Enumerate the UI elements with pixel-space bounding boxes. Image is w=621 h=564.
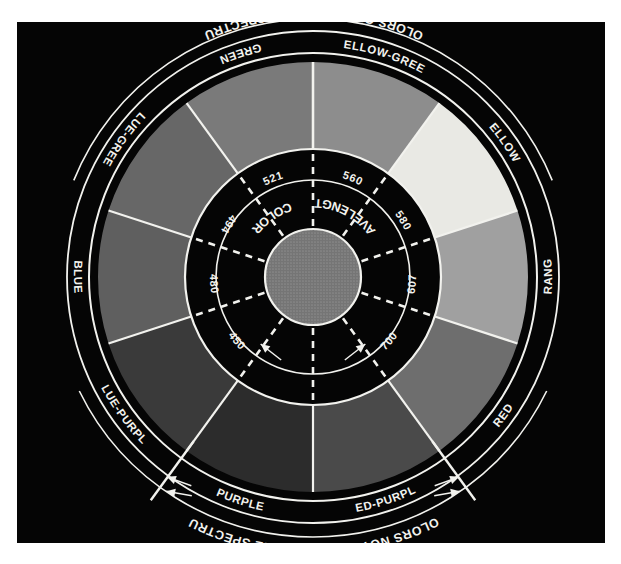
band-tick <box>238 318 283 380</box>
band-tick <box>191 237 264 261</box>
segment-label-purple-text: PURPLE <box>215 486 266 513</box>
band-label-color-text: COLOR <box>249 200 294 237</box>
wavelength-700: 700 <box>378 329 400 352</box>
segment-label-blue-green-text: BLUE-GREEN <box>17 22 148 169</box>
wavelength-700-text: 700 <box>378 329 400 352</box>
wavelength-607-text: 607 <box>405 274 418 294</box>
band-arrow-right-head <box>356 344 366 353</box>
band-arrow-left <box>261 344 281 360</box>
center-hub <box>265 229 361 325</box>
segment-label-green: GREEN <box>218 42 263 67</box>
color-wheel: YELLOW-GREENYELLOWORANGEREDRED-PURPLEPUR… <box>17 22 605 543</box>
segment-label-purple: PURPLE <box>215 486 266 513</box>
segment-label-green-text: GREEN <box>218 42 263 67</box>
caption-top-arc: COLORS ON THE VISIBLE SPECTRUM <box>17 22 425 43</box>
wavelength-450-text: 450 <box>226 329 248 352</box>
segment-label-red-text: RED <box>491 401 516 429</box>
band-tick <box>343 318 388 380</box>
wavelength-480: 480 <box>208 274 221 294</box>
band-label-color: COLOR <box>249 200 294 237</box>
segment-label-blue: BLUE <box>72 260 85 294</box>
arrow-right-upper-head <box>449 476 459 484</box>
arrow-left-lower <box>166 489 192 497</box>
band-tick <box>362 293 435 317</box>
arrow-left-upper-head <box>167 476 177 484</box>
arrow-right-lower <box>434 489 460 497</box>
wavelength-450: 450 <box>226 329 248 352</box>
segment-label-blue-green: BLUE-GREEN <box>17 22 148 169</box>
wavelength-607: 607 <box>405 274 418 294</box>
caption-top-arc-text: COLORS ON THE VISIBLE SPECTRUM <box>17 22 425 43</box>
band-tick <box>191 293 264 317</box>
diagram-panel: YELLOW-GREENYELLOWORANGEREDRED-PURPLEPUR… <box>17 22 605 543</box>
wavelength-480-text: 480 <box>208 274 221 294</box>
band-tick <box>362 237 435 261</box>
band-arrow-left-head <box>261 344 271 353</box>
segment-label-blue-text: BLUE <box>72 260 85 294</box>
band-arrow-right <box>345 344 365 360</box>
segment-label-red: RED <box>491 401 516 429</box>
